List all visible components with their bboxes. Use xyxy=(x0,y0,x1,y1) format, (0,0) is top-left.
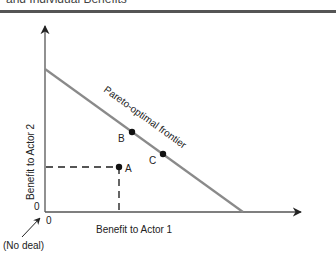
point-a xyxy=(116,164,122,170)
y-origin-label: 0 xyxy=(34,201,40,212)
point-a-label: A xyxy=(125,163,132,174)
point-b-label: B xyxy=(118,133,125,144)
point-c-label: C xyxy=(149,155,156,166)
x-origin-label: 0 xyxy=(46,215,52,226)
pareto-frontier-line xyxy=(45,69,243,212)
no-deal-label: (No deal) xyxy=(3,240,44,251)
no-deal-arrow xyxy=(22,218,40,237)
pareto-diagram: A B C Pareto-optimal frontier Benefit to… xyxy=(0,0,336,258)
point-c xyxy=(160,151,166,157)
point-b xyxy=(129,129,135,135)
y-axis-label: Benefit to Actor 2 xyxy=(25,123,36,200)
x-axis-label: Benefit to Actor 1 xyxy=(96,224,173,235)
